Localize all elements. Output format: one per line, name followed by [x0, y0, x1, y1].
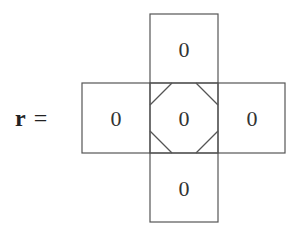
right-cell-value: 0 [247, 106, 258, 131]
left-cell-value: 0 [111, 106, 122, 131]
bottom-cell-value: 0 [179, 176, 190, 201]
cross-stencil-diagram: 0 0 0 0 0 [0, 0, 299, 234]
center-cell-value: 0 [179, 106, 190, 131]
top-cell-value: 0 [179, 37, 190, 62]
